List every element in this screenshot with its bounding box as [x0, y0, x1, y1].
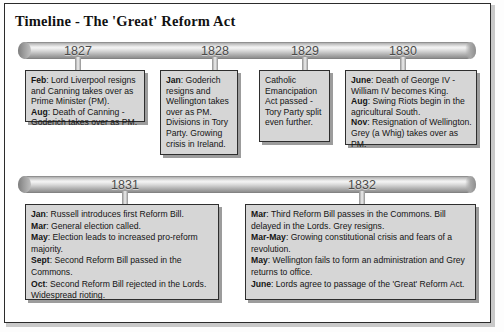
event-line: Sept: Second Reform Bill passed in the C…	[31, 255, 214, 278]
event-line: June: Death of George IV - William IV be…	[351, 75, 472, 96]
event-box-1827: Feb: Lord Liverpool resigns and Canning …	[25, 70, 145, 122]
year-label-1827: 1827	[64, 44, 92, 58]
event-line: May: Election leads to increased pro-ref…	[31, 232, 214, 255]
timeline-bar-lower	[18, 176, 476, 193]
timeline-diagram: Timeline - The 'Great' Reform Act 1827 1…	[0, 0, 504, 332]
event-month: Mar	[251, 209, 266, 219]
event-month: May	[31, 232, 48, 242]
event-text: : Death of Canning - Goderich takes over…	[31, 107, 137, 128]
event-text: : Lord Liverpool resigns and Canning tak…	[31, 75, 136, 106]
event-text: : Wellington fails to form an administra…	[251, 255, 465, 277]
timeline-stem-1827	[75, 57, 81, 71]
event-line: Jan: Russell introduces first Reform Bil…	[31, 209, 214, 221]
event-text: : Election leads to increased pro-reform…	[31, 232, 198, 254]
event-box-1829: Catholic Emancipation Act passed - Tory …	[259, 70, 330, 142]
event-text: : Third Reform Bill passes in the Common…	[251, 209, 446, 231]
event-text: : Lords agree to passage of the 'Great' …	[271, 279, 464, 289]
event-text: : Goderich resigns and Wellington takes …	[166, 75, 229, 149]
event-line: June: Lords agree to passage of the 'Gre…	[251, 279, 471, 291]
event-box-1831: Jan: Russell introduces first Reform Bil…	[25, 204, 219, 300]
timeline-stem-1829	[302, 57, 308, 71]
year-label-1830: 1830	[389, 44, 417, 58]
event-text: : Second Reform Bill rejected in the Lor…	[31, 279, 206, 301]
event-box-1828: Jan: Goderich resigns and Wellington tak…	[160, 70, 238, 155]
event-month: May	[251, 255, 268, 265]
event-line: Oct: Second Reform Bill rejected in the …	[31, 279, 214, 302]
event-month: Aug	[31, 107, 48, 117]
page-title: Timeline - The 'Great' Reform Act	[15, 13, 235, 30]
event-month: June	[251, 279, 271, 289]
event-month: Mar	[31, 221, 46, 231]
event-month: Aug	[351, 96, 368, 106]
event-month: Feb	[31, 75, 46, 85]
event-month: Sept	[31, 255, 50, 265]
year-label-1831: 1831	[111, 178, 139, 192]
event-text: : Second Reform Bill passed in the Commo…	[31, 255, 181, 277]
event-line: Mar-May: Growing constitutional crisis a…	[251, 232, 471, 255]
event-text: : Russell introduces first Reform Bill.	[46, 209, 184, 219]
event-month: Nov	[351, 117, 367, 127]
event-month: Oct	[31, 279, 45, 289]
event-line: Mar: General election called.	[31, 221, 214, 233]
event-text: : General election called.	[46, 221, 141, 231]
event-box-1830: June: Death of George IV - William IV be…	[345, 70, 477, 145]
event-month: Mar-May	[251, 232, 286, 242]
event-line: Nov: Resignation of Wellington. Grey (a …	[351, 117, 472, 149]
timeline-stem-1832	[359, 191, 365, 205]
timeline-stem-1831	[122, 191, 128, 205]
event-text: : Resignation of Wellington. Grey (a Whi…	[351, 117, 472, 148]
event-line: Mar: Third Reform Bill passes in the Com…	[251, 209, 471, 232]
event-line: Feb: Lord Liverpool resigns and Canning …	[31, 75, 140, 107]
event-line: Aug: Death of Canning - Goderich takes o…	[31, 107, 140, 128]
event-line: Aug: Swing Riots begin in the agricultur…	[351, 96, 472, 117]
event-text: : Swing Riots begin in the agricultural …	[351, 96, 465, 117]
event-line: Catholic Emancipation Act passed - Tory …	[265, 75, 325, 128]
timeline-stem-1830	[400, 57, 406, 71]
event-month: Jan	[166, 75, 181, 85]
year-label-1832: 1832	[348, 178, 376, 192]
event-month: June	[351, 75, 371, 85]
event-line: Jan: Goderich resigns and Wellington tak…	[166, 75, 233, 149]
event-month: Jan	[31, 209, 46, 219]
event-box-1832: Mar: Third Reform Bill passes in the Com…	[245, 204, 476, 300]
event-text: Catholic Emancipation Act passed - Tory …	[265, 75, 321, 127]
year-label-1829: 1829	[291, 44, 319, 58]
event-line: May: Wellington fails to form an adminis…	[251, 255, 471, 278]
year-label-1828: 1828	[201, 44, 229, 58]
timeline-stem-1828	[212, 57, 218, 71]
